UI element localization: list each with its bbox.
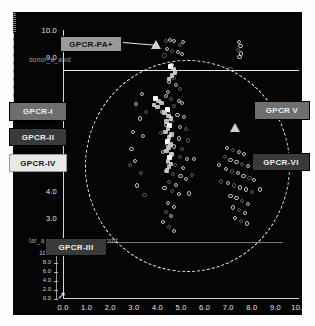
- data-point-marker: [174, 83, 178, 87]
- data-point-marker: [242, 152, 246, 156]
- data-point-marker: [164, 210, 168, 214]
- data-point-marker: [228, 194, 232, 198]
- cluster-marker: [167, 77, 172, 82]
- data-point-marker: [239, 219, 243, 223]
- data-point-marker: [171, 172, 175, 176]
- data-point-marker: [246, 164, 250, 168]
- label-gpcr-i[interactable]: GPCR-I: [9, 102, 67, 121]
- data-point-marker: [185, 157, 189, 161]
- data-point-marker: [182, 115, 186, 119]
- cluster-marker: [155, 105, 160, 110]
- data-point-marker: [138, 116, 142, 120]
- data-point-marker: [241, 174, 245, 178]
- data-point-marker: [184, 177, 188, 181]
- data-point-marker: [230, 169, 234, 173]
- data-point-marker: [133, 159, 137, 163]
- data-point-marker: [159, 131, 163, 135]
- data-point-marker: [228, 67, 232, 71]
- data-point-marker: [180, 147, 184, 151]
- data-point-marker: [243, 211, 247, 215]
- data-point-marker: [237, 55, 241, 59]
- data-point-marker: [180, 52, 184, 56]
- label-gpcr-ii[interactable]: GPCR-II: [9, 128, 67, 146]
- label-gpcr-pa-plus[interactable]: GPCR-PA+: [60, 36, 122, 52]
- data-point-marker: [170, 189, 174, 193]
- data-point-marker: [187, 191, 191, 195]
- data-point-marker: [246, 202, 250, 206]
- data-point-marker: [217, 163, 221, 167]
- data-point-marker: [165, 47, 169, 51]
- data-point-marker: [240, 162, 244, 166]
- screenshot-root: 10.09.06.05.04.03.02.0 0.01.02.03.04.05.…: [0, 0, 315, 326]
- data-point-marker: [226, 181, 230, 185]
- data-point-marker: [180, 101, 184, 105]
- data-point-marker: [131, 130, 135, 134]
- data-point-marker: [170, 49, 174, 53]
- data-point-marker: [134, 102, 138, 106]
- label-gpcr-iii[interactable]: GPCR-III: [45, 238, 107, 256]
- data-point-marker: [245, 221, 249, 225]
- data-point-marker: [167, 225, 171, 229]
- cluster-marker: [169, 116, 174, 121]
- data-point-marker: [240, 199, 244, 203]
- data-point-marker: [164, 94, 168, 98]
- data-point-marker: [172, 229, 176, 233]
- data-point-marker: [178, 125, 182, 129]
- data-point-marker: [162, 186, 166, 190]
- data-point-marker: [166, 201, 170, 205]
- data-point-marker: [225, 146, 229, 150]
- data-point-marker: [172, 39, 176, 43]
- data-point-marker: [161, 220, 165, 224]
- data-point-marker: [129, 147, 133, 151]
- data-point-marker: [174, 183, 178, 187]
- data-point-marker: [228, 158, 232, 162]
- data-point-marker: [231, 205, 235, 209]
- data-point-marker: [233, 216, 237, 220]
- data-point-marker: [237, 150, 241, 154]
- cluster-marker: [163, 130, 168, 135]
- data-point-marker: [238, 185, 242, 189]
- cluster-marker: [165, 168, 170, 173]
- data-point-marker: [224, 167, 228, 171]
- data-point-marker: [181, 40, 185, 44]
- data-point-marker: [186, 138, 190, 142]
- data-point-marker: [177, 136, 181, 140]
- data-point-marker: [234, 160, 238, 164]
- data-point-marker: [219, 179, 223, 183]
- data-point-marker: [135, 183, 139, 187]
- data-point-marker: [139, 171, 143, 175]
- cluster-marker: [164, 149, 169, 154]
- data-point-marker: [144, 110, 148, 114]
- data-point-marker: [175, 113, 179, 117]
- data-point-marker: [232, 183, 236, 187]
- data-point-marker: [190, 173, 194, 177]
- data-point-marker: [231, 148, 235, 152]
- data-point-marker: [172, 104, 176, 108]
- triangle-marker: [230, 123, 240, 132]
- data-point-marker: [223, 155, 227, 159]
- data-point-marker: [169, 97, 173, 101]
- label-gpcr-iv[interactable]: GPCR-IV: [9, 154, 67, 172]
- data-point-marker: [258, 187, 262, 191]
- label-gpcr-v[interactable]: GPCR V: [254, 101, 310, 120]
- data-point-marker: [167, 180, 171, 184]
- label-gpcr-vi[interactable]: GPCR-VI: [252, 153, 310, 171]
- data-point-marker: [162, 53, 166, 57]
- data-point-marker: [184, 127, 188, 131]
- data-point-marker: [244, 187, 248, 191]
- data-point-marker: [173, 163, 177, 167]
- data-point-marker: [177, 192, 181, 196]
- data-point-marker: [181, 166, 185, 170]
- cluster-marker: [159, 101, 164, 106]
- data-point-marker: [172, 205, 176, 209]
- data-point-marker: [250, 190, 254, 194]
- data-point-marker: [178, 155, 182, 159]
- data-point-marker: [140, 92, 144, 96]
- data-point-marker: [252, 178, 256, 182]
- data-point-marker: [236, 171, 240, 175]
- data-point-marker: [128, 163, 132, 167]
- data-point-marker: [178, 174, 182, 178]
- data-point-marker: [141, 134, 145, 138]
- data-point-marker: [247, 176, 251, 180]
- data-point-marker: [234, 196, 238, 200]
